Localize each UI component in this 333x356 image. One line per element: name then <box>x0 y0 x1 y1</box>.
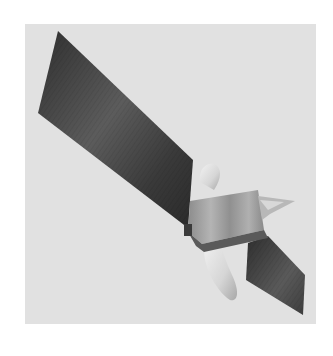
panel-mount <box>184 224 192 236</box>
satellite-illustration <box>25 24 316 324</box>
satellite-image <box>25 24 316 324</box>
